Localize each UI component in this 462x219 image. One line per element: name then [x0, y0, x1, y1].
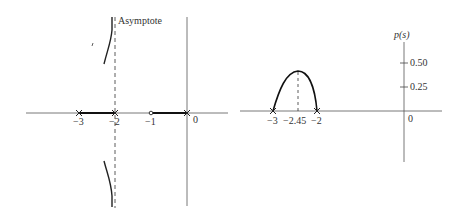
- diagram-canvas: −3 −2 −1 0 Asymptote p(s) 0.50 0.25 −3 −…: [0, 0, 462, 219]
- p-axis-label: p(s): [393, 29, 410, 41]
- locus-branch-upper: [104, 17, 112, 64]
- stray-mark: [92, 43, 93, 46]
- ytick-label-050: 0.50: [410, 57, 428, 68]
- xtick-label-m245: −2.45: [283, 115, 306, 126]
- tick-label-m1: −1: [145, 116, 156, 127]
- root-locus-plot: −3 −2 −1 0 Asymptote: [26, 15, 228, 208]
- p-curve: [273, 71, 317, 111]
- ytick-label-025: 0.25: [410, 81, 428, 92]
- locus-branch-lower: [104, 161, 112, 207]
- zero-marker-m1: [149, 111, 153, 115]
- tick-label-0: 0: [193, 114, 198, 125]
- xtick-label-m2: −2: [311, 115, 322, 126]
- breakaway-plot: p(s) 0.50 0.25 −3 −2.45 −2 0: [240, 29, 442, 162]
- asymptote-label: Asymptote: [118, 15, 162, 26]
- xtick-label-m3: −3: [267, 115, 278, 126]
- origin-label: 0: [408, 113, 413, 124]
- tick-label-m3: −3: [73, 116, 84, 127]
- tick-label-m2: −2: [109, 116, 120, 127]
